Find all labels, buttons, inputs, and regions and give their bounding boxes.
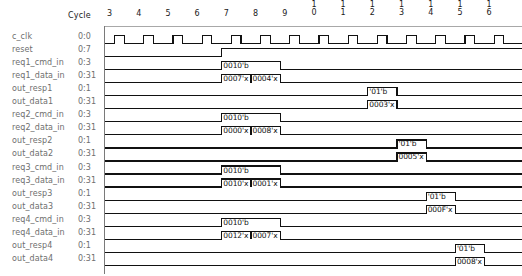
cycle-tick-5: 5 [165, 10, 183, 18]
signal-label-req3_data_in[interactable]: req3_data_in [12, 176, 65, 185]
signal-range-req2_data_in: 0:31 [78, 123, 96, 132]
signal-label-req1_cmd_in[interactable]: req1_cmd_in [12, 58, 64, 67]
wave-value-req2_data_in: 0000'x [223, 126, 248, 135]
cycle-tick-15: 15 [457, 1, 475, 17]
signal-label-out_resp1[interactable]: out_resp1 [12, 84, 52, 93]
wave-out_resp1 [105, 88, 522, 96]
signal-name-column: c_clk0:0reset0:7req1_cmd_in0:3req1_data_… [0, 30, 104, 276]
wave-out_data2 [105, 153, 522, 161]
cycle-tick-4: 4 [136, 10, 154, 18]
signal-label-c_clk[interactable]: c_clk [12, 32, 32, 41]
cycle-tick-6: 6 [195, 10, 213, 18]
signal-range-out_data3: 0:31 [78, 202, 96, 211]
signal-label-req2_cmd_in[interactable]: req2_cmd_in [12, 110, 64, 119]
wave-value-req3_data_in: 0010'x [223, 179, 248, 188]
signal-range-req4_data_in: 0:31 [78, 228, 96, 237]
wave-out_resp2 [105, 140, 522, 148]
wave-out_resp3 [105, 192, 522, 200]
wave-value-req2_cmd_in: 0010'b [223, 113, 248, 122]
signal-label-req3_cmd_in[interactable]: req3_cmd_in [12, 163, 64, 172]
wave-value-req4_cmd_in: 0010'b [223, 218, 248, 227]
wave-value-req3_cmd_in: 0010'b [223, 166, 248, 175]
wave-value-out_resp2: '01'b [399, 139, 417, 148]
signal-range-reset: 0:7 [78, 45, 91, 54]
waveform-svg [104, 30, 522, 276]
signal-label-out_data1[interactable]: out_data1 [12, 97, 53, 106]
wave-value-req3_data_in: 0001'x [253, 179, 278, 188]
wave-req2_data_in [105, 127, 522, 135]
signal-range-out_resp1: 0:1 [78, 84, 91, 93]
cycle-tick-11: 11 [341, 1, 359, 17]
cycle-tick-13: 13 [399, 1, 417, 17]
signal-label-reset[interactable]: reset [12, 45, 33, 54]
wave-value-out_data3: 000F'x [428, 205, 453, 214]
wave-value-req4_data_in: 0012'x [223, 231, 248, 240]
wave-req2_cmd_in [105, 114, 522, 122]
signal-label-out_data2[interactable]: out_data2 [12, 149, 53, 158]
cycle-tick-8: 8 [253, 10, 271, 18]
cycle-tick-3: 3 [107, 10, 125, 18]
wave-value-req1_data_in: 0004'x [253, 74, 278, 83]
signal-range-out_resp3: 0:1 [78, 189, 91, 198]
signal-label-req4_cmd_in[interactable]: req4_cmd_in [12, 215, 64, 224]
wave-reset [105, 49, 522, 57]
wave-req1_data_in [105, 75, 522, 83]
signal-label-out_resp3[interactable]: out_resp3 [12, 189, 52, 198]
wave-value-req2_data_in: 0008'x [253, 126, 278, 135]
waveform-viewer: Cycle 345678910111213141516 c_clk0:0rese… [0, 0, 522, 276]
signal-range-req3_data_in: 0:31 [78, 176, 96, 185]
cycle-tick-9: 9 [282, 10, 300, 18]
wave-value-out_data1: 0003'x [369, 100, 394, 109]
signal-range-req1_data_in: 0:31 [78, 71, 96, 80]
signal-label-out_resp4[interactable]: out_resp4 [12, 241, 52, 250]
cycle-tick-14: 14 [428, 1, 446, 17]
signal-label-out_data4[interactable]: out_data4 [12, 254, 53, 263]
cycle-tick-10: 10 [311, 1, 329, 17]
signal-range-out_resp4: 0:1 [78, 241, 91, 250]
wave-value-out_data4: 0008'x [457, 257, 482, 266]
wave-value-out_resp4: '01'b [457, 244, 475, 253]
signal-label-req2_data_in[interactable]: req2_data_in [12, 123, 65, 132]
wave-value-req1_data_in: 0007'x [223, 74, 248, 83]
waveform-canvas: 0010'b0007'x0004'x'01'b0003'x0010'b0000'… [104, 30, 522, 276]
signal-range-c_clk: 0:0 [78, 32, 91, 41]
cycle-tick-12: 12 [370, 1, 388, 17]
wave-req3_data_in [105, 179, 522, 187]
cycle-header-label: Cycle [68, 11, 91, 20]
signal-range-req2_cmd_in: 0:3 [78, 110, 91, 119]
wave-req3_cmd_in [105, 166, 522, 174]
signal-range-req3_cmd_in: 0:3 [78, 163, 91, 172]
signal-range-req1_cmd_in: 0:3 [78, 58, 91, 67]
wave-req4_data_in [105, 231, 522, 239]
signal-label-req1_data_in[interactable]: req1_data_in [12, 71, 65, 80]
wave-out_data3 [105, 205, 522, 213]
wave-req4_cmd_in [105, 218, 522, 226]
wave-value-req4_data_in: 0007'x [253, 231, 278, 240]
wave-c_clk [105, 36, 522, 44]
wave-value-req1_cmd_in: 0010'b [223, 61, 248, 70]
cycle-tick-7: 7 [224, 10, 242, 18]
wave-value-out_resp1: '01'b [369, 87, 387, 96]
signal-range-out_data2: 0:31 [78, 149, 96, 158]
signal-range-out_data1: 0:31 [78, 97, 96, 106]
signal-label-out_data3[interactable]: out_data3 [12, 202, 53, 211]
wave-value-out_data2: 0005'x [399, 152, 424, 161]
wave-req1_cmd_in [105, 62, 522, 70]
signal-range-req4_cmd_in: 0:3 [78, 215, 91, 224]
wave-value-out_resp3: '01'b [428, 192, 446, 201]
signal-range-out_resp2: 0:1 [78, 136, 91, 145]
signal-label-out_resp2[interactable]: out_resp2 [12, 136, 52, 145]
timeline-top-axis [104, 26, 522, 27]
signal-range-out_data4: 0:31 [78, 254, 96, 263]
signal-label-req4_data_in[interactable]: req4_data_in [12, 228, 65, 237]
cycle-tick-16: 16 [487, 1, 505, 17]
wave-out_data1 [105, 101, 522, 109]
